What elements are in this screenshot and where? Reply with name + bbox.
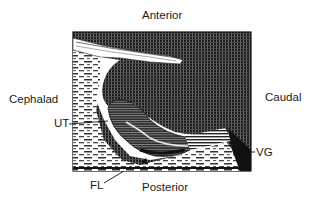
label-anterior: Anterior bbox=[142, 10, 182, 22]
label-fl: FL bbox=[90, 180, 103, 192]
fl-leader-line bbox=[104, 171, 124, 183]
label-vg: VG bbox=[256, 147, 273, 159]
label-posterior: Posterior bbox=[142, 182, 188, 194]
label-ut: UT bbox=[54, 118, 69, 130]
label-caudal: Caudal bbox=[265, 92, 301, 104]
label-cephalad: Cephalad bbox=[9, 94, 58, 106]
